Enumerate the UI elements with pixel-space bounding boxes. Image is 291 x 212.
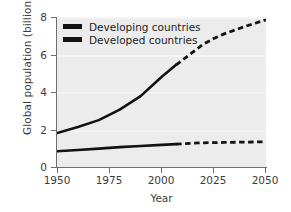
y-tick-mark-4 bbox=[51, 92, 56, 93]
legend-item-developed: Developed countries bbox=[63, 33, 201, 46]
chart-legend: Developing countries Developed countries bbox=[63, 20, 201, 46]
x-tick-label-2050: 2050 bbox=[245, 175, 285, 186]
y-tick-label-6: 6 bbox=[28, 50, 47, 61]
y-tick-label-8: 8 bbox=[28, 12, 47, 23]
legend-label-developing: Developing countries bbox=[89, 21, 201, 33]
y-tick-mark-8 bbox=[51, 17, 56, 18]
series-solid-0 bbox=[57, 65, 176, 133]
x-tick-mark-2000 bbox=[161, 168, 162, 173]
x-tick-label-2025: 2025 bbox=[193, 175, 233, 186]
y-tick-label-0: 0 bbox=[28, 162, 47, 173]
y-tick-mark-0 bbox=[51, 167, 56, 168]
x-tick-mark-2050 bbox=[265, 168, 266, 173]
x-tick-label-2000: 2000 bbox=[141, 175, 181, 186]
series-solid-1 bbox=[57, 144, 176, 151]
y-tick-mark-6 bbox=[51, 55, 56, 56]
population-line-chart: Global population (billions) Year 8 6 4 … bbox=[0, 0, 291, 212]
series-projection-1 bbox=[176, 142, 266, 144]
y-axis-line bbox=[56, 17, 57, 168]
legend-swatch-icon bbox=[63, 24, 82, 29]
x-tick-mark-2025 bbox=[213, 168, 214, 173]
y-tick-label-4: 4 bbox=[28, 87, 47, 98]
x-axis-title: Year bbox=[57, 192, 266, 204]
x-tick-mark-1950 bbox=[57, 168, 58, 173]
legend-item-developing: Developing countries bbox=[63, 20, 201, 33]
y-tick-label-2: 2 bbox=[28, 125, 47, 136]
legend-label-developed: Developed countries bbox=[89, 34, 197, 46]
legend-swatch-icon bbox=[63, 37, 82, 42]
x-tick-label-1950: 1950 bbox=[37, 175, 77, 186]
x-tick-mark-1975 bbox=[109, 168, 110, 173]
x-tick-label-1975: 1975 bbox=[89, 175, 129, 186]
y-tick-mark-2 bbox=[51, 130, 56, 131]
